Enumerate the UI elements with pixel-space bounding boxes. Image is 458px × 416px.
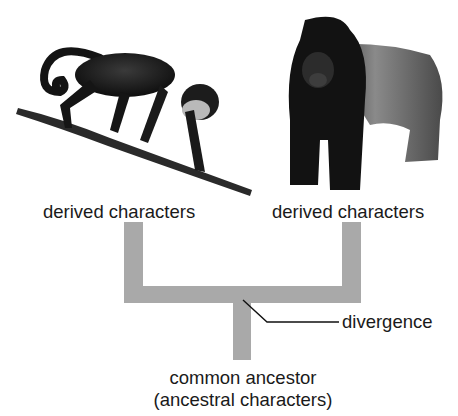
divergence-label: divergence — [342, 313, 433, 332]
root-sublabel: (ancestral characters) — [0, 391, 458, 410]
divergence-leader-line — [0, 0, 458, 416]
root-label: common ancestor — [0, 369, 458, 388]
